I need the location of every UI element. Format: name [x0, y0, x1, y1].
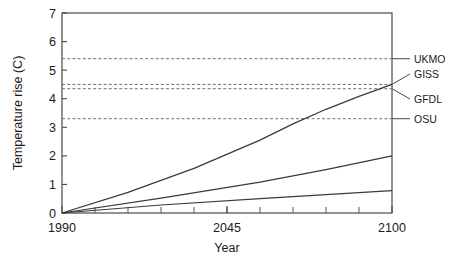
reference-lines — [62, 59, 392, 119]
x-tick-label-2100: 2100 — [378, 221, 406, 235]
y-tick-label-0: 0 — [49, 207, 56, 221]
y-tick-label-7: 7 — [49, 7, 56, 21]
x-tick-label-1990: 1990 — [48, 221, 76, 235]
y-tick-labels: 0 1 2 3 4 5 6 7 — [49, 7, 56, 221]
temperature-rise-line-chart: 0 1 2 3 4 5 6 7 1990 2045 2100 Year Temp… — [0, 0, 451, 265]
y-tick-label-4: 4 — [49, 92, 56, 106]
series-curves — [62, 84, 392, 213]
legend-label-ukmo: UKMO — [414, 53, 446, 65]
legend-label-giss: GISS — [414, 68, 439, 80]
legend-leader-lines — [392, 59, 410, 119]
x-axis-title: Year — [214, 241, 239, 255]
y-axis-ticks — [62, 13, 67, 213]
legend-label-gfdl: GFDL — [414, 93, 442, 105]
y-tick-label-1: 1 — [49, 178, 56, 192]
legend: UKMO GISS GFDL OSU — [414, 53, 446, 125]
curve-middle — [62, 156, 392, 213]
x-tick-labels: 1990 2045 2100 — [48, 221, 406, 235]
legend-label-osu: OSU — [414, 113, 437, 125]
leader-gfdl — [392, 89, 410, 99]
x-tick-label-2045: 2045 — [213, 221, 241, 235]
y-axis-title: Temperature rise (C) — [11, 56, 25, 171]
plot-frame — [62, 13, 392, 213]
y-tick-label-3: 3 — [49, 121, 56, 135]
chart-figure: 0 1 2 3 4 5 6 7 1990 2045 2100 Year Temp… — [0, 0, 451, 265]
y-tick-label-2: 2 — [49, 149, 56, 163]
y-tick-label-6: 6 — [49, 35, 56, 49]
leader-giss — [392, 74, 410, 84]
y-tick-label-5: 5 — [49, 64, 56, 78]
